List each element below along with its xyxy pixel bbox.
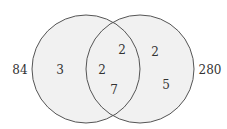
venn-diagram: [0, 0, 227, 129]
intersection-top-value: 2: [118, 44, 126, 56]
right-outside-label: 280: [199, 64, 222, 76]
right-only-bottom-value: 5: [162, 79, 170, 91]
intersection-left-value: 2: [98, 64, 106, 76]
intersection-bottom-value: 7: [110, 84, 118, 96]
left-only-value: 3: [56, 64, 64, 76]
right-only-top-value: 2: [151, 46, 159, 58]
left-outside-label: 84: [12, 64, 27, 76]
